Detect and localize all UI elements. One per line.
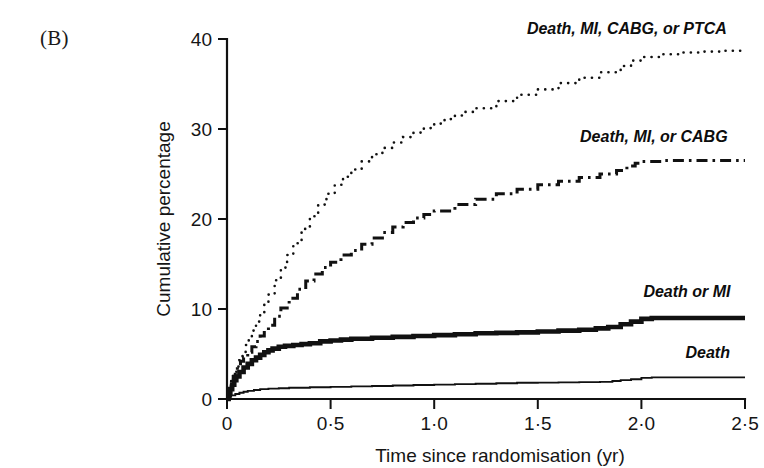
x-tick-label: 0 xyxy=(222,413,233,434)
curves-layer xyxy=(227,50,745,399)
y-tick-label: 20 xyxy=(191,209,212,230)
y-tick-label: 30 xyxy=(191,119,212,140)
curve-label-1: Death, MI, or CABG xyxy=(580,128,728,145)
y-axis-title: Cumulative percentage xyxy=(153,121,174,316)
x-tick-label: 2·0 xyxy=(628,413,655,434)
series-curve-1 xyxy=(227,161,745,400)
curve-label-2: Death or MI xyxy=(643,283,731,300)
panel-label: (B) xyxy=(40,26,69,51)
x-tick-label: 1·5 xyxy=(524,413,551,434)
curve-label-0: Death, MI, CABG, or PTCA xyxy=(527,20,727,37)
x-axis-title: Time since randomisation (yr) xyxy=(375,445,625,466)
y-tick-label: 10 xyxy=(191,299,212,320)
figure-panel-b: (B) 01020304000·51·01·52·02·5 Death, MI,… xyxy=(0,0,764,468)
cumulative-percentage-chart: 01020304000·51·01·52·02·5 Death, MI, CAB… xyxy=(0,0,764,468)
curve-labels-layer: Death, MI, CABG, or PTCADeath, MI, or CA… xyxy=(527,20,731,361)
y-tick-label: 0 xyxy=(201,389,212,410)
x-tick-label: 2·5 xyxy=(731,413,758,434)
curve-label-3: Death xyxy=(685,344,730,361)
x-tick-label: 0·5 xyxy=(317,413,344,434)
series-curve-0 xyxy=(227,50,745,399)
x-tick-label: 1·0 xyxy=(420,413,447,434)
y-tick-label: 40 xyxy=(191,29,212,50)
series-curve-3 xyxy=(227,377,745,399)
axes-layer: 01020304000·51·01·52·02·5 xyxy=(191,29,759,434)
